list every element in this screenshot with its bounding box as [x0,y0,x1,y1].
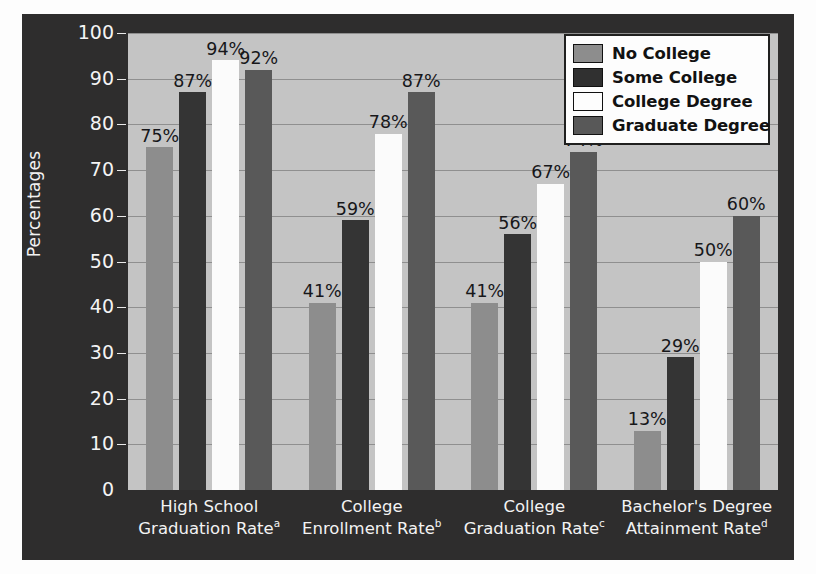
x-axis-category-line2: Attainment Rated [616,517,779,539]
bar-chart: Percentages 0102030405060708090100 75%87… [22,14,794,560]
bar-value-label: 29% [661,338,700,356]
y-axis-tick-mark [117,170,126,171]
legend-swatch-icon [573,92,603,111]
bar-value-label: 59% [336,201,375,219]
y-axis-tick-label: 20 [48,389,114,408]
bar-value-label: 92% [239,50,278,68]
y-axis-tick-mark [117,399,126,400]
bar[interactable]: 41% [471,303,498,490]
bar[interactable]: 67% [537,184,564,490]
bar[interactable]: 74% [570,152,597,490]
legend-item-label: Some College [612,68,737,87]
y-axis-tick-label: 100 [48,23,114,42]
x-axis-category-label: CollegeEnrollment Rateb [291,496,454,539]
legend-swatch-icon [573,68,603,87]
bar[interactable]: 13% [634,431,661,490]
legend-swatch-icon [573,44,603,63]
bar[interactable]: 29% [667,357,694,490]
x-axis-category-line1: College [291,496,454,517]
y-axis-tick-mark [117,353,126,354]
bar-value-label: 60% [727,196,766,214]
y-axis-tick-label: 40 [48,297,114,316]
x-axis-category-line1: High School [128,496,291,517]
x-axis-category-line1: Bachelor's Degree [616,496,779,517]
bar-value-label: 13% [628,411,667,429]
y-axis-tick-mark [117,33,126,34]
legend-item[interactable]: Graduate Degree [573,113,760,137]
x-axis-category-line1: College [453,496,616,517]
x-axis-category-label: High SchoolGraduation Ratea [128,496,291,539]
y-axis-tick-mark [117,79,126,80]
y-axis-tick-label: 90 [48,69,114,88]
x-axis-category-line2: Graduation Ratea [128,517,291,539]
y-axis-tick-label: 50 [48,252,114,271]
bar[interactable]: 56% [504,234,531,490]
bar[interactable]: 94% [212,60,239,490]
bar-value-label: 67% [531,164,570,182]
bar-value-label: 87% [173,73,212,91]
bar[interactable]: 87% [179,92,206,490]
y-axis-tick-mark [117,216,126,217]
y-axis-tick-label: 30 [48,343,114,362]
y-axis-title: Percentages [24,124,44,284]
y-axis-tick-mark [117,262,126,263]
bar[interactable]: 60% [733,216,760,490]
legend-item-label: College Degree [612,92,753,111]
bar[interactable]: 92% [245,70,272,490]
bar-value-label: 87% [402,73,441,91]
y-axis-tick-label: 80 [48,114,114,133]
bar-group: 75%87%94%92% [128,33,291,490]
x-axis-category-footnote-marker: b [435,517,442,529]
bar[interactable]: 50% [700,262,727,491]
bar-value-label: 50% [694,242,733,260]
y-axis-tick-label: 70 [48,160,114,179]
legend-swatch-icon [573,116,603,135]
x-axis-category-line2: Graduation Ratec [453,517,616,539]
bar-value-label: 75% [140,128,179,146]
bar-group: 41%59%78%87% [291,33,454,490]
x-axis-category-footnote-marker: a [274,517,280,529]
y-axis-tick-label: 60 [48,206,114,225]
bar[interactable]: 87% [408,92,435,490]
chart-legend: No CollegeSome CollegeCollege DegreeGrad… [564,34,770,145]
bar[interactable]: 59% [342,220,369,490]
x-axis-category-line2: Enrollment Rateb [291,517,454,539]
bar-value-label: 41% [465,283,504,301]
bar[interactable]: 41% [309,303,336,490]
bar[interactable]: 75% [146,147,173,490]
y-axis-tick-mark [117,124,126,125]
bar-value-label: 78% [369,114,408,132]
bar[interactable]: 78% [375,134,402,490]
bar-value-label: 56% [498,215,537,233]
legend-item[interactable]: Some College [573,65,760,89]
y-axis-tick-mark [117,444,126,445]
legend-item[interactable]: College Degree [573,89,760,113]
x-axis-category-label: Bachelor's DegreeAttainment Rated [616,496,779,539]
y-axis-tick-label: 0 [48,480,114,499]
legend-item-label: No College [612,44,711,63]
y-axis-tick-mark [117,307,126,308]
x-axis-category-footnote-marker: c [599,517,605,529]
legend-item[interactable]: No College [573,41,760,65]
legend-item-label: Graduate Degree [612,116,770,135]
y-axis-tick-label: 10 [48,434,114,453]
x-axis-category-footnote-marker: d [761,517,768,529]
x-axis-category-label: CollegeGraduation Ratec [453,496,616,539]
bar-value-label: 41% [303,283,342,301]
